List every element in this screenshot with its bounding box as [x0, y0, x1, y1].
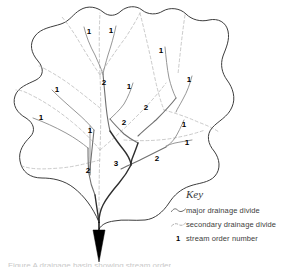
stream-order-label: 1 — [185, 139, 189, 147]
stream-order-label: 3 — [114, 160, 118, 168]
secondary-divide-upper-left — [62, 17, 100, 75]
stream-2d — [121, 147, 166, 169]
first-order-streams — [33, 26, 192, 170]
secondary-divide-upper-right — [100, 13, 140, 75]
stream-1c — [165, 47, 176, 98]
stream-order-label: 1 — [127, 83, 131, 91]
secondary-divide-right-top — [140, 13, 164, 110]
stream-order-label: 1 — [182, 121, 186, 129]
secondary-divide-right-edge — [178, 15, 185, 74]
legend-label-stream-order: stream order number — [186, 234, 258, 243]
caption-sliver: Figure A drainage basin showing stream o… — [8, 261, 171, 267]
major-drainage-divide-icon — [170, 205, 186, 216]
trunk-stream-third-order — [95, 131, 138, 222]
stream-2e — [90, 130, 94, 175]
stream-order-number-icon: 1 — [170, 234, 186, 243]
secondary-divide-left-mid — [39, 66, 100, 108]
legend: Key major drainage divide secondary drai… — [170, 188, 295, 246]
stream-order-label: 2 — [102, 79, 106, 87]
stream-1g — [33, 118, 88, 148]
outlet-arrow — [93, 222, 105, 262]
second-order-streams — [88, 74, 176, 195]
legend-item-stream-order: 1 stream order number — [170, 232, 295, 245]
stream-order-label: 1 — [87, 28, 91, 36]
secondary-divide-right-mid — [124, 130, 205, 141]
stream-order-label: 1 — [88, 127, 92, 135]
stream-order-label: 1 — [159, 47, 163, 55]
stream-order-label: 2 — [86, 167, 90, 175]
stream-1f — [52, 90, 94, 130]
legend-title: Key — [186, 188, 295, 200]
legend-item-secondary-divide: secondary drainage divide — [170, 218, 295, 231]
outlet-arrow-head — [93, 230, 105, 262]
stream-order-label: 1 — [39, 114, 43, 122]
stream-order-label: 1 — [109, 27, 113, 35]
stream-order-label: 1 — [55, 86, 59, 94]
stream-order-label: 1 — [187, 76, 191, 84]
legend-label-major-divide: major drainage divide — [186, 206, 260, 215]
trunk-main — [99, 165, 131, 222]
stream-order-label: 2 — [144, 104, 148, 112]
secondary-drainage-divide-icon — [170, 219, 186, 230]
stream-order-label: 2 — [122, 119, 126, 127]
secondary-divide-central — [99, 13, 101, 222]
legend-label-secondary-divide: secondary drainage divide — [186, 220, 276, 229]
legend-item-major-divide: major drainage divide — [170, 204, 295, 217]
drainage-basin-figure: 1 1 1 2 1 1 2 1 1 1 2 1 1 2 3 2 Key majo… — [0, 0, 295, 267]
secondary-divide-right-lower — [164, 110, 219, 132]
stream-order-label: 2 — [155, 155, 159, 163]
